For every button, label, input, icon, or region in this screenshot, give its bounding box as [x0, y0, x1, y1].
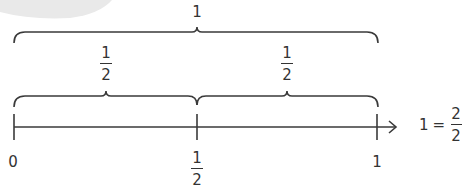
numerator: 1: [192, 151, 202, 165]
tick-label-half: 1 2: [187, 151, 207, 187]
tick-label-one: 1: [369, 155, 385, 170]
equation-fraction: 2 2: [449, 107, 463, 143]
equation-equals: =: [433, 116, 446, 134]
left-half-label: 1 2: [96, 46, 116, 82]
denominator: 2: [282, 68, 292, 82]
numerator: 1: [282, 46, 292, 60]
right-half-brace: [197, 91, 378, 107]
top-brace: [14, 27, 378, 43]
top-brace-label: 1: [189, 5, 205, 20]
left-half-brace: [14, 91, 197, 107]
denominator: 2: [192, 173, 202, 187]
fraction-bar: [281, 63, 293, 64]
fraction-bar: [100, 63, 112, 64]
equation-lhs: 1: [419, 116, 429, 134]
denominator: 2: [101, 68, 111, 82]
right-half-label: 1 2: [277, 46, 297, 82]
fraction-bar: [451, 124, 462, 125]
background-blob: [0, 0, 112, 18]
numerator: 1: [101, 46, 111, 60]
denominator: 2: [451, 129, 461, 143]
numerator: 2: [451, 107, 461, 121]
fraction-bar: [191, 168, 203, 169]
tick-label-zero: 0: [5, 155, 21, 170]
equation: 1 = 2 2: [419, 107, 463, 143]
